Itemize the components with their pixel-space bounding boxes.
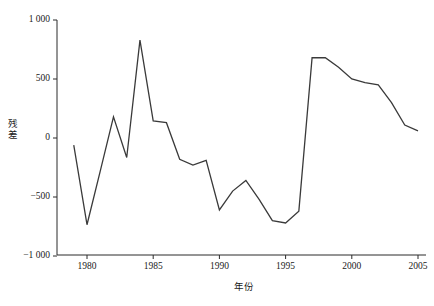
y-tick-label: 0 bbox=[45, 132, 50, 142]
y-tick-label: −500 bbox=[30, 191, 50, 201]
x-tick-label: 2000 bbox=[342, 261, 361, 271]
residual-line-chart: 1 0005000−500−1 000 19801985199019952000… bbox=[0, 0, 434, 306]
data-series-group bbox=[74, 40, 418, 225]
x-tick-label: 2005 bbox=[409, 261, 428, 271]
y-tick-group: 1 0005000−500−1 000 bbox=[23, 14, 57, 260]
x-tick-label: 1995 bbox=[276, 261, 295, 271]
x-axis: 198019851990199520002005 bbox=[57, 255, 428, 271]
y-tick-label: −1 000 bbox=[23, 250, 50, 260]
chart-plot-area: 1 0005000−500−1 000 19801985199019952000… bbox=[0, 0, 434, 306]
y-axis-title: 残差 bbox=[6, 118, 19, 140]
x-tick-label: 1985 bbox=[144, 261, 163, 271]
x-axis-title: 年份 bbox=[234, 281, 254, 292]
y-tick-label: 1 000 bbox=[29, 14, 51, 24]
x-tick-label: 1990 bbox=[210, 261, 229, 271]
x-tick-group: 198019851990199520002005 bbox=[78, 255, 428, 271]
series-line-0 bbox=[74, 40, 418, 225]
y-tick-label: 500 bbox=[36, 73, 51, 83]
y-axis: 1 0005000−500−1 000 bbox=[23, 14, 57, 260]
x-tick-label: 1980 bbox=[78, 261, 97, 271]
